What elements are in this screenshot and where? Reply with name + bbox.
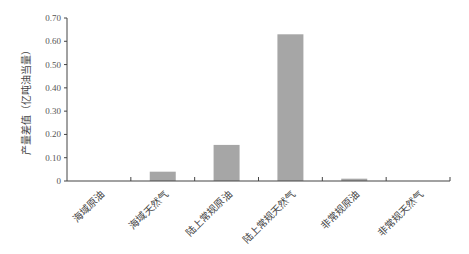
y-tick-label: 0 [57,176,62,186]
bars [150,34,368,181]
bar [277,34,303,181]
x-category-label: 海域原油 [70,188,107,225]
y-tick-label: 0.40 [45,83,61,93]
x-axis: 海域原油海域天然气陆上常规原油陆上常规天然气非常规原油非常规天然气 [67,177,450,246]
x-category-label: 非常规天然气 [375,188,426,239]
x-category-label: 非常规原油 [318,188,362,232]
y-tick-label: 0.50 [45,60,61,70]
x-category-label: 陆上常规天然气 [240,188,298,246]
y-tick-label: 0.10 [45,153,61,163]
y-tick-label: 0.20 [45,129,61,139]
y-tick-label: 0.30 [45,106,61,116]
y-axis-label: 产量差值（亿吨油当量） [20,45,32,155]
bar-chart: 00.100.200.300.400.500.600.70 海域原油海域天然气陆… [0,0,469,254]
y-tick-label: 0.60 [45,36,61,46]
bar [214,145,240,181]
y-axis: 00.100.200.300.400.500.600.70 [45,13,67,186]
x-category-label: 陆上常规原油 [183,188,234,239]
x-category-label: 海域天然气 [126,188,170,232]
y-tick-label: 0.70 [45,13,61,23]
bar [150,172,176,181]
